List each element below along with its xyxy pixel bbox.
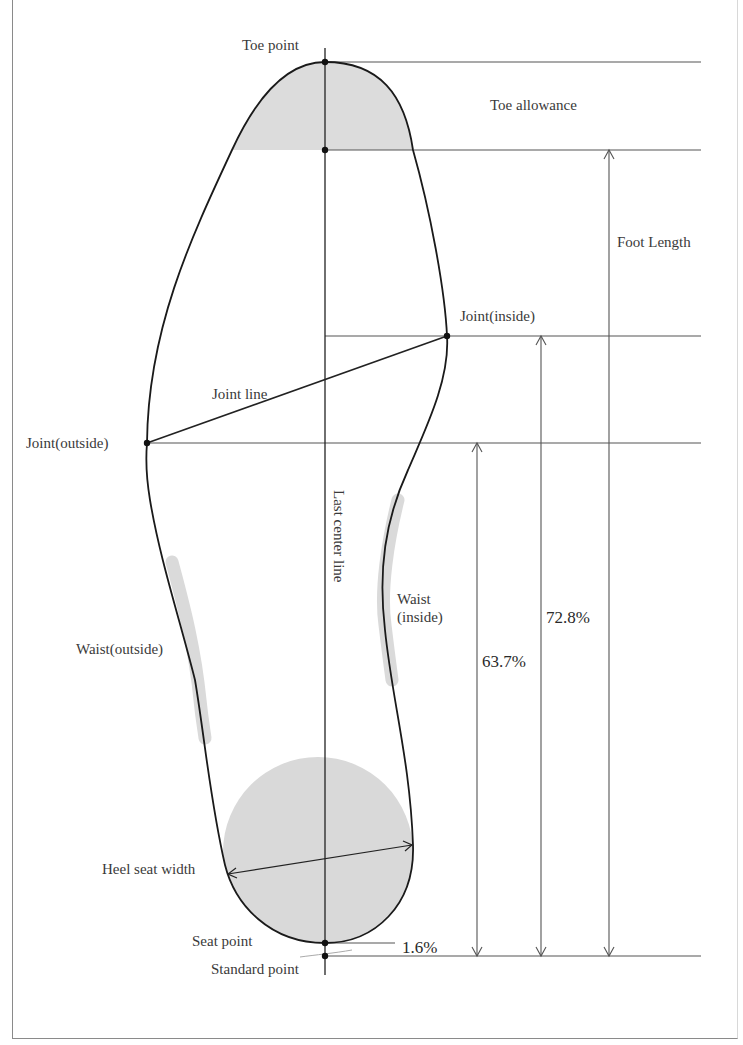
joint-outside-ratio: 63.7% [482,653,526,670]
heel-seat-shading [223,757,413,947]
joint-outside-label: Joint(outside) [26,436,109,451]
seat-point-dot [322,940,328,946]
joint-outside-dot [144,440,150,446]
seat-offset-ratio: 1.6% [402,939,437,956]
foot-last-diagram [0,0,743,1045]
dimension-arrows [472,150,614,956]
joint-inside-ratio: 72.8% [546,609,590,626]
toe-allowance-shading [100,55,500,150]
joint-line [147,336,447,443]
joint-inside-label: Joint(inside) [460,309,535,324]
waist-outside-label: Waist(outside) [76,642,163,657]
waist-inside-label-2: (inside) [397,610,443,625]
foot-length-label: Foot Length [617,235,691,250]
joint-line-label: Joint line [212,387,267,402]
foot-length-arrow [604,150,614,956]
last-center-line-label: Last center line [331,490,346,582]
standard-point-label: Standard point [211,962,299,977]
toe-allowance-dot [322,147,328,153]
joint-inside-arrow [536,336,546,956]
standard-point-dot [322,953,328,959]
joint-outside-arrow [472,443,482,956]
waist-inside-highlight [383,500,398,680]
heel-seat-width-label: Heel seat width [102,862,195,877]
toe-allowance-label: Toe allowance [490,98,577,113]
waist-inside-label-1: Waist [397,592,431,607]
joint-inside-dot [444,333,450,339]
seat-point-label: Seat point [192,934,252,949]
toe-point-label: Toe point [242,38,299,53]
toe-point-dot [322,59,328,65]
